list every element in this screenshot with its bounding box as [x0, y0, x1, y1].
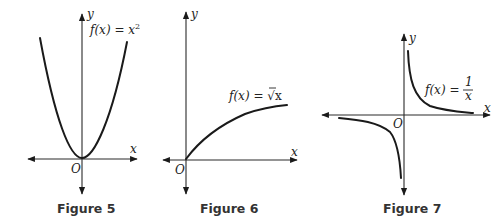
x-axis-label: x — [484, 101, 491, 115]
origin-label: O — [71, 162, 81, 176]
figure-caption: Figure 5 — [57, 201, 115, 216]
function-label: f(x) = x2 — [89, 22, 140, 37]
parabola-curve — [40, 38, 127, 158]
y-axis-label: y — [408, 31, 416, 45]
reciprocal-curve-q1 — [408, 51, 473, 113]
figure-caption: Figure 7 — [383, 201, 441, 216]
function-label: f(x) = √x — [228, 89, 282, 103]
figure-7: y x O f(x) = 1 x Figure 7 — [322, 31, 491, 216]
origin-label: O — [175, 163, 185, 177]
figures-canvas: y x O f(x) = x2 Figure 5 y x O f(x) = √x… — [0, 0, 501, 224]
fraction-numerator: 1 — [465, 75, 473, 89]
sqrt-curve — [186, 105, 287, 159]
x-axis-label: x — [291, 145, 298, 159]
figure-5: y x O f(x) = x2 Figure 5 — [28, 7, 140, 216]
figure-caption: Figure 6 — [200, 201, 259, 216]
origin-label: O — [393, 117, 403, 131]
x-axis-label: x — [130, 142, 137, 156]
fraction-denominator: x — [465, 89, 472, 103]
function-label: f(x) = — [424, 83, 459, 97]
reciprocal-curve-q3 — [339, 118, 401, 178]
y-axis-label: y — [86, 7, 94, 21]
figure-6: y x O f(x) = √x Figure 6 — [163, 7, 298, 216]
y-axis-label: y — [190, 7, 198, 21]
